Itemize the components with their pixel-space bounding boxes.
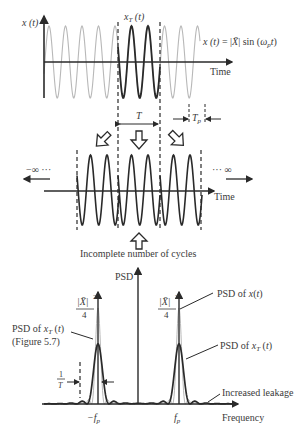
- windowing-diagram: x (t) xT (t) x (t) = |X̄| sin (ωpt) Time…: [0, 0, 302, 434]
- middle-time-label: Time: [214, 191, 235, 202]
- signal-equation: x (t) = |X̄| sin (ωpt): [202, 36, 277, 49]
- hollow-arrow-left-icon: [91, 128, 114, 151]
- psd-xT-label-right: PSD of xT (t): [220, 340, 272, 353]
- top-panel: x (t) xT (t) x (t) = |X̄| sin (ωpt) Time…: [21, 11, 277, 140]
- neg-fp-label: −fp: [87, 412, 101, 425]
- frequency-axis-label: Frequency: [222, 412, 264, 423]
- psd-xT-leader-left: [71, 332, 93, 339]
- bottom-panel: PSD |X̄| 2 4 |X̄| 2 4 PSD of x(t) PSD of…: [12, 268, 294, 425]
- svg-text:4: 4: [82, 310, 87, 320]
- pos-infinity-label: ··· ∞: [212, 164, 232, 175]
- peak-value-label-left: |X̄| 2 4: [76, 293, 97, 320]
- psd-xT-label-left: PSD of xT (t): [12, 323, 64, 336]
- svg-text:2: 2: [175, 293, 179, 301]
- x-t-label: x (t): [21, 17, 39, 29]
- neg-infinity-label: −∞ ···: [26, 164, 51, 175]
- time-axis-label: Time: [210, 66, 231, 77]
- svg-text:|X̄|: |X̄|: [77, 296, 89, 307]
- peak-value-label-right: |X̄| 2 4: [158, 293, 179, 320]
- figure-reference-label: (Figure 5.7): [12, 336, 60, 348]
- psd-x-leader: [180, 293, 213, 309]
- transition-arrows: [91, 127, 189, 151]
- svg-text:T: T: [58, 381, 63, 390]
- pos-fp-label: fp: [174, 412, 181, 425]
- svg-text:2: 2: [93, 293, 97, 301]
- window-length-label: T: [136, 110, 143, 121]
- leakage-leader: [208, 394, 220, 402]
- hollow-arrow-up-icon: [131, 233, 147, 249]
- psd-axis-label: PSD: [115, 271, 133, 282]
- periodically-extended-wave: [77, 155, 202, 225]
- leakage-label: Increased leakage: [222, 387, 294, 398]
- svg-text:1: 1: [59, 370, 63, 379]
- bandwidth-label: 1 T: [57, 370, 65, 390]
- svg-text:|X̄|: |X̄|: [159, 296, 171, 307]
- hollow-arrow-right-icon: [165, 127, 189, 151]
- svg-text:4: 4: [164, 310, 169, 320]
- psd-xT-leader-right: [186, 345, 218, 359]
- incomplete-cycles-caption: Incomplete number of cycles: [80, 248, 196, 259]
- xT-t-label: xT (t): [123, 11, 145, 24]
- psd-x-label: PSD of x(t): [217, 288, 263, 300]
- middle-panel: −∞ ··· ··· ∞ Time Incomplete number of c…: [24, 140, 252, 259]
- hollow-arrow-down-icon: [131, 131, 147, 149]
- period-label: Tp: [192, 112, 202, 125]
